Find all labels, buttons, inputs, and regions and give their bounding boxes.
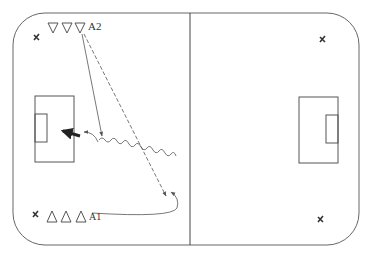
shot-curve: [84, 132, 98, 142]
dribble-line: [99, 138, 176, 156]
right-penalty-area: [299, 97, 338, 163]
left-goal-area: [35, 114, 47, 142]
corner-marker-icon: [318, 216, 323, 222]
run-line-curved: [92, 192, 178, 215]
group-label-a1: A1: [89, 211, 101, 222]
cone-group-a2: [48, 23, 85, 33]
corner-marker-icon: [33, 211, 38, 217]
cone-group-a1: [47, 211, 86, 222]
corner-marker-icon: [34, 34, 39, 40]
left-penalty-area: [35, 96, 74, 162]
right-goal-area: [326, 115, 338, 143]
field-diagram: [0, 0, 372, 255]
run-line-dashed: [84, 34, 166, 196]
corner-marker-icon: [320, 36, 325, 42]
shot-arrow: [63, 131, 80, 136]
pass-line: [82, 34, 102, 136]
group-label-a2: A2: [88, 20, 101, 32]
field-boundary: [13, 13, 359, 245]
